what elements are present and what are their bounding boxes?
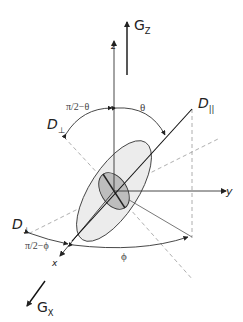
z-axis-label: z bbox=[111, 42, 116, 51]
theta-label: θ bbox=[140, 102, 145, 113]
d-parallel-axis bbox=[72, 109, 192, 241]
gx-label: GX bbox=[37, 300, 54, 317]
x-axis-label: x bbox=[52, 259, 57, 268]
diagram-canvas bbox=[0, 0, 243, 322]
gz-label: GZ bbox=[134, 18, 151, 35]
d-perp-bottom-label: D⊥ bbox=[12, 217, 30, 234]
y-axis-label: y bbox=[226, 186, 233, 197]
phi-label: ϕ bbox=[121, 251, 127, 262]
pi2-minus-theta-label: π/2−θ bbox=[66, 102, 89, 112]
pi2-minus-phi-label: π/2−ϕ bbox=[25, 241, 49, 251]
d-parallel-label: D|| bbox=[198, 96, 214, 113]
d-perp-top-label: D⊥ bbox=[47, 117, 65, 134]
